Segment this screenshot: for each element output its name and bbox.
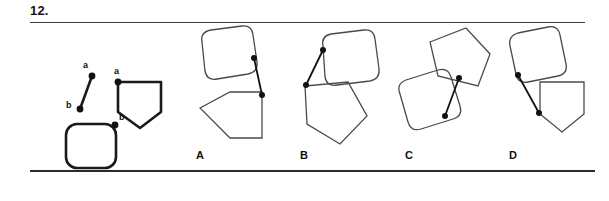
option-c-joint-bottom (442, 113, 448, 119)
option-c-figure[interactable] (390, 24, 494, 148)
option-b-rounded-square (323, 30, 379, 85)
option-label-c[interactable]: C (357, 148, 461, 162)
option-a-pentagon (200, 92, 262, 138)
label-segment-a: a (83, 60, 89, 70)
option-label-b[interactable]: B (252, 148, 356, 162)
option-a-joint-top (251, 55, 257, 61)
option-b-connector (306, 50, 323, 85)
question-number: 12. (30, 3, 49, 19)
question-container: 12. a b a b (0, 0, 609, 201)
prompt-svg: a b a b (24, 24, 170, 148)
option-label-a[interactable]: A (148, 148, 252, 162)
option-a-figure[interactable] (180, 24, 284, 148)
option-a-connector (254, 58, 262, 95)
option-a-svg (180, 24, 284, 148)
option-c-joint-top (456, 75, 462, 81)
option-a-rounded-square (202, 26, 257, 79)
piece-connector-segment: a b (66, 60, 95, 112)
segment-endpoint-b (77, 106, 84, 113)
option-d-pentagon (540, 82, 584, 132)
divider-top (30, 22, 585, 23)
label-pentagon-a: a (114, 66, 120, 76)
option-b-joint-top (320, 47, 326, 53)
option-d-joint-bottom (536, 110, 542, 116)
option-c-svg (390, 24, 494, 148)
option-label-d[interactable]: D (461, 148, 565, 162)
option-d-svg (492, 24, 596, 148)
segment-body (80, 76, 92, 109)
option-b-pentagon (305, 82, 367, 144)
pentagon-marker-a (115, 79, 122, 86)
prompt-figure: a b a b (24, 24, 170, 148)
option-d-figure[interactable] (492, 24, 596, 148)
option-b-figure[interactable] (285, 24, 389, 148)
divider-bottom (30, 170, 595, 172)
piece-rounded-square: b (66, 112, 125, 168)
option-d-joint-top (515, 72, 521, 78)
label-segment-b: b (66, 100, 72, 110)
option-a-joint-bottom (259, 92, 265, 98)
option-b-joint-bottom (303, 82, 309, 88)
segment-endpoint-a (89, 73, 96, 80)
rounded-square-outline (66, 124, 116, 168)
square-marker-b (112, 122, 119, 129)
option-b-svg (285, 24, 389, 148)
label-square-b: b (119, 112, 125, 122)
